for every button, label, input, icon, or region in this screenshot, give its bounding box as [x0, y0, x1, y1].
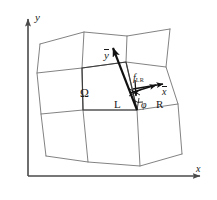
local-x-axis-arrow — [133, 84, 163, 89]
mesh-row-0 — [40, 29, 170, 44]
angle-label-phi: φ — [141, 100, 147, 110]
mesh-col-0 — [37, 44, 46, 156]
y-axis-label: y — [35, 12, 40, 23]
mesh-row-3 — [46, 154, 182, 166]
diagram-svg — [0, 0, 217, 200]
left-cell-label: L — [114, 99, 121, 110]
domain-label-omega: Ω — [80, 87, 89, 99]
mesh-col-3 — [166, 29, 182, 154]
local-x-axis-label: x — [162, 87, 166, 97]
right-cell-label: R — [156, 99, 163, 110]
local-y-axis-label-text: y — [104, 50, 109, 61]
flux-subscript: LR — [136, 76, 144, 83]
x-axis-label: x — [196, 164, 200, 174]
flux-vector-label: fLR — [133, 73, 144, 84]
local-y-axis-label: y — [104, 50, 109, 61]
mesh-row-1 — [37, 62, 166, 73]
angle-reference-ray — [137, 98, 139, 110]
figure-canvas: y x Ω L R φ y x fLR — [0, 0, 217, 200]
local-x-axis-label-text: x — [162, 87, 166, 97]
